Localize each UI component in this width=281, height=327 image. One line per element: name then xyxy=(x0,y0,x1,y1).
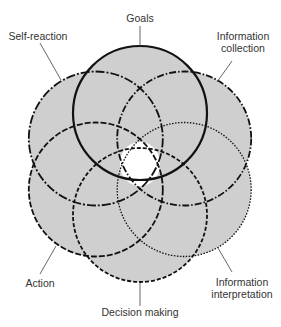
leader-information-interpretation xyxy=(218,248,232,272)
label-information-interpretation: Information interpretation xyxy=(205,276,279,300)
label-information-collection-line1: Information xyxy=(208,30,278,42)
label-information-interpretation-line2: interpretation xyxy=(205,288,279,300)
leader-action xyxy=(40,246,56,274)
label-information-interpretation-line1: Information xyxy=(205,276,279,288)
leader-self-reaction xyxy=(40,43,61,80)
label-self-reaction: Self-reaction xyxy=(6,30,70,42)
label-goals: Goals xyxy=(120,12,160,24)
label-decision-making: Decision making xyxy=(95,306,185,318)
leader-information-collection xyxy=(217,61,232,82)
label-information-collection-line2: collection xyxy=(208,42,278,54)
label-action: Action xyxy=(20,277,60,289)
label-information-collection: Information collection xyxy=(208,30,278,54)
